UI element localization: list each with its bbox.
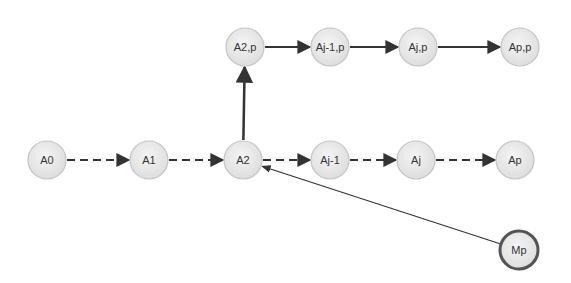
node-label: Ap,p xyxy=(509,41,532,53)
node-a2-p[interactable]: A2,p xyxy=(226,28,264,66)
node-ap-p[interactable]: Ap,p xyxy=(501,28,539,66)
node-a1[interactable]: A1 xyxy=(130,141,168,179)
node-label: Aj-1,p xyxy=(316,41,345,53)
node-label: Mp xyxy=(511,244,526,256)
node-ap[interactable]: Ap xyxy=(496,141,534,179)
node-a0[interactable]: A0 xyxy=(28,141,66,179)
node-aj-1-p[interactable]: Aj-1,p xyxy=(311,28,349,66)
node-label: Aj,p xyxy=(409,41,428,53)
node-label: Aj xyxy=(411,154,421,166)
node-a2[interactable]: A2 xyxy=(224,141,262,179)
node-label: A2,p xyxy=(234,41,257,53)
diagram-canvas: A0A1A2Aj-1AjApA2,pAj-1,pAj,pAp,pMp xyxy=(0,0,571,283)
node-label: A0 xyxy=(40,154,53,166)
node-aj-1[interactable]: Aj-1 xyxy=(311,141,349,179)
edges-layer xyxy=(67,47,500,244)
edge-a2-to-a2-p xyxy=(243,67,244,140)
nodes-layer: A0A1A2Aj-1AjApA2,pAj-1,pAj,pAp,pMp xyxy=(28,28,539,269)
node-label: A2 xyxy=(236,154,249,166)
node-label: Ap xyxy=(508,154,521,166)
node-aj-p[interactable]: Aj,p xyxy=(399,28,437,66)
node-aj[interactable]: Aj xyxy=(397,141,435,179)
node-label: A1 xyxy=(142,154,155,166)
node-label: Aj-1 xyxy=(320,154,340,166)
edge-mp-to-a2 xyxy=(262,166,500,244)
node-mp[interactable]: Mp xyxy=(500,231,538,269)
